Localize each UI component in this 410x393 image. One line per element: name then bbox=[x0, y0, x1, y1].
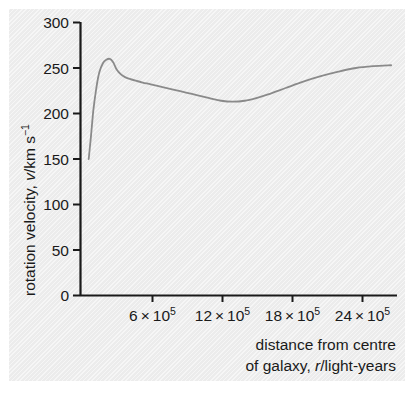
x-tick-label-24e5: 24×105 bbox=[335, 305, 391, 324]
y-axis-tick-labels: 300 250 200 150 100 50 0 bbox=[43, 14, 69, 304]
x-axis-title-line2: of galaxy, r/light-years bbox=[246, 357, 397, 374]
y-tick-label-150: 150 bbox=[43, 151, 69, 168]
chart-figure: 300 250 200 150 100 50 0 6×105 12×105 18… bbox=[0, 0, 410, 393]
x-tick-label-18e5: 18×105 bbox=[265, 305, 321, 324]
x-axis-title-line1: distance from centre bbox=[256, 336, 396, 353]
rotation-curve-line bbox=[89, 59, 391, 159]
x-tick-label-12e5: 12×105 bbox=[195, 305, 251, 324]
y-tick-label-300: 300 bbox=[43, 14, 69, 31]
y-tick-label-200: 200 bbox=[43, 105, 69, 122]
x-axis-tick-labels: 6×105 12×105 18×105 24×105 bbox=[129, 305, 390, 324]
y-axis-ticks bbox=[73, 23, 80, 296]
y-tick-label-0: 0 bbox=[60, 287, 69, 304]
chart-plot-area: 300 250 200 150 100 50 0 6×105 12×105 18… bbox=[0, 0, 410, 393]
y-tick-label-250: 250 bbox=[43, 60, 69, 77]
y-tick-label-100: 100 bbox=[43, 196, 69, 213]
y-tick-label-50: 50 bbox=[52, 242, 70, 259]
x-tick-label-6e5: 6×105 bbox=[129, 305, 176, 324]
y-axis-title: rotation velocity, v/km s−1 bbox=[19, 124, 38, 296]
